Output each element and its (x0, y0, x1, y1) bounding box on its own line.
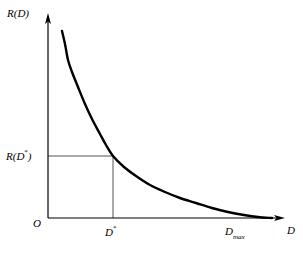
rate-distortion-curve (62, 31, 272, 218)
dmax-base: D (225, 225, 233, 237)
rate-at-dstar-label: R(D*) (6, 150, 32, 162)
plot-canvas (0, 0, 303, 258)
rate-at-dstar-close: ) (28, 150, 32, 162)
dmax-subscript: max (233, 233, 245, 241)
dstar-base: D (105, 226, 113, 238)
rate-at-dstar-star: * (24, 148, 28, 156)
rate-distortion-figure: R(D) D O R(D*) D* Dmax (0, 0, 303, 258)
dmax-label: Dmax (225, 226, 245, 240)
dstar-star: * (113, 224, 117, 232)
dstar-label: D* (105, 226, 116, 238)
origin-label: O (33, 218, 41, 229)
x-axis-label: D (287, 225, 295, 236)
rate-at-dstar-base: R(D (6, 150, 24, 162)
y-axis-label: R(D) (7, 8, 29, 19)
